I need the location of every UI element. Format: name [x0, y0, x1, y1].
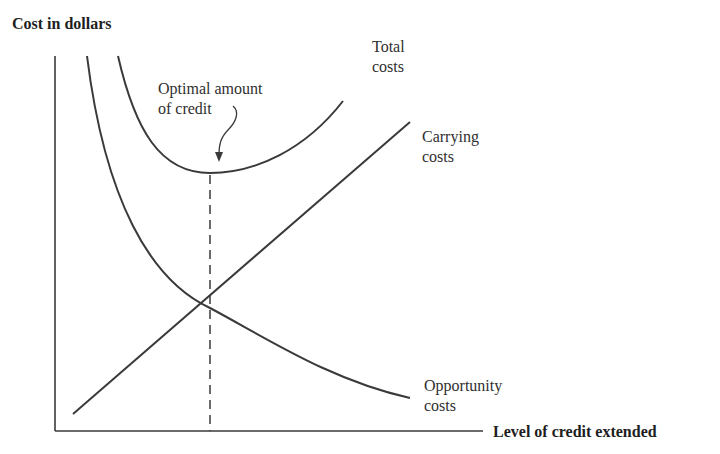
- opportunity-costs-label-1: Opportunity: [424, 376, 502, 395]
- optimal-arrow: [219, 106, 237, 155]
- total-costs-label-1: Total: [372, 37, 405, 56]
- opportunity-costs-label-2: costs: [424, 396, 456, 415]
- optimal-label-2: of credit: [158, 99, 212, 118]
- y-axis-label: Cost in dollars: [12, 14, 112, 33]
- carrying-costs-line: [73, 122, 410, 414]
- carrying-costs-label-1: Carrying: [422, 127, 479, 146]
- x-axis-label: Level of credit extended: [493, 422, 657, 441]
- total-costs-label-2: costs: [372, 57, 404, 76]
- chart-canvas: [0, 0, 720, 454]
- carrying-costs-label-2: costs: [422, 147, 454, 166]
- opportunity-costs-curve: [87, 56, 410, 398]
- total-costs-curve: [118, 56, 343, 173]
- optimal-label-1: Optimal amount: [158, 79, 262, 98]
- arrow-head-icon: [215, 152, 223, 162]
